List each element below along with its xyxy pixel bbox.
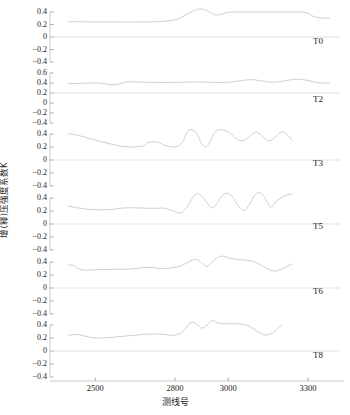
y-tick-label: 0 — [19, 284, 47, 292]
panel-tag-T5: T5 — [313, 221, 323, 231]
y-tick-label: −0.2 — [19, 46, 47, 54]
panel-T2 — [50, 73, 340, 123]
y-tick-label: 0.4 — [19, 79, 47, 87]
y-tick-label: 0.2 — [19, 143, 47, 151]
trace-T8 — [69, 320, 282, 338]
y-tick-label: 0 — [19, 33, 47, 41]
trace-T0 — [69, 9, 330, 22]
trace-T3 — [69, 129, 292, 147]
y-tick-label: −0.2 — [19, 109, 47, 117]
x-axis-label: 测线号 — [0, 395, 350, 408]
y-tick-label: 0.2 — [19, 271, 47, 279]
y-tick-label: −0.2 — [19, 233, 47, 241]
y-tick-label: −0.4 — [19, 373, 47, 381]
y-tick-label: −0.4 — [19, 119, 47, 127]
y-tick-label: 0 — [19, 99, 47, 107]
panel-T3 — [50, 129, 340, 186]
y-tick-label: −0.4 — [19, 182, 47, 190]
y-tick-label: −0.2 — [19, 169, 47, 177]
x-tick-label: 2500 — [75, 384, 115, 393]
panel-tag-T8: T8 — [313, 350, 323, 360]
y-tick-label: 0.4 — [19, 130, 47, 138]
y-tick-label: 0.4 — [19, 258, 47, 266]
panel-T5 — [50, 193, 340, 250]
y-tick-label: −0.4 — [19, 310, 47, 318]
y-tick-label: 0.4 — [19, 8, 47, 16]
trace-T6 — [69, 256, 292, 271]
panel-tag-T2: T2 — [313, 94, 323, 104]
y-tick-label: 0 — [19, 156, 47, 164]
panel-T8 — [50, 320, 340, 377]
y-tick-label: 0.2 — [19, 334, 47, 342]
y-tick-label: 0.6 — [19, 69, 47, 77]
y-tick-label: −0.2 — [19, 360, 47, 368]
panel-T0 — [50, 9, 340, 62]
y-axis-label: 增(释)压强度系数K — [0, 140, 9, 260]
y-tick-label: 0.2 — [19, 89, 47, 97]
y-tick-label: −0.2 — [19, 297, 47, 305]
y-tick-label: 0.4 — [19, 321, 47, 329]
x-tick-label: 3300 — [288, 384, 328, 393]
panel-T6 — [50, 256, 340, 314]
panel-tag-T0: T0 — [313, 36, 323, 46]
plot-canvas — [0, 0, 350, 415]
trace-T5 — [69, 193, 292, 213]
x-tick-label: 2800 — [155, 384, 195, 393]
panel-tag-T6: T6 — [313, 286, 323, 296]
y-tick-label: 0.2 — [19, 207, 47, 215]
y-tick-label: −0.4 — [19, 58, 47, 66]
y-tick-label: 0 — [19, 220, 47, 228]
trace-T2 — [69, 79, 330, 85]
y-tick-label: 0.4 — [19, 194, 47, 202]
y-tick-label: 0.2 — [19, 21, 47, 29]
y-tick-label: −0.4 — [19, 246, 47, 254]
y-tick-label: 0 — [19, 347, 47, 355]
x-tick-label: 3000 — [208, 384, 248, 393]
chart-figure: 增(释)压强度系数K 测线号 0.40.20−0.2−0.40.60.40.20… — [0, 0, 350, 415]
x-axis — [50, 378, 344, 382]
panel-tag-T3: T3 — [313, 158, 323, 168]
